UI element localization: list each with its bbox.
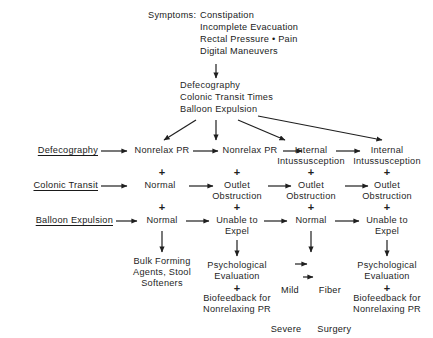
plus-col3-row2: + bbox=[308, 202, 314, 213]
col3-colonic-transit-result: Outlet Obstruction bbox=[286, 180, 336, 202]
col3-treatment-table: MildFiber SevereSurgery bbox=[271, 258, 352, 338]
col3-treatment-row-mild: MildFiber bbox=[271, 284, 352, 297]
stage-label-balloon-expulsion: Balloon Expulsion bbox=[36, 215, 113, 226]
plus-col3-row1: + bbox=[308, 167, 314, 178]
test-item-balloon-expulsion: Balloon Expulsion bbox=[180, 104, 257, 115]
col4-defecography-result: Internal Intussusception bbox=[353, 145, 421, 167]
symptom-item-incomplete-evacuation: Incomplete Evacuation bbox=[200, 22, 298, 34]
col2-colonic-transit-result: Outlet Obstruction bbox=[212, 180, 262, 202]
col4-treatment-plus: + bbox=[384, 283, 390, 294]
symptom-item-constipation: Constipation bbox=[200, 10, 254, 22]
col4-balloon-expulsion-result: Unable to Expel bbox=[366, 215, 408, 237]
col3-treatment-row-severe: SevereSurgery bbox=[271, 323, 352, 336]
plus-col2-row2: + bbox=[234, 202, 240, 213]
col3-therapy-surgery: Surgery bbox=[317, 324, 351, 334]
stage-label-colonic-transit: Colonic Transit bbox=[33, 180, 98, 191]
col1-treatment: Bulk Forming Agents, Stool Softeners bbox=[133, 256, 191, 290]
plus-col4-row1: + bbox=[384, 167, 390, 178]
plus-col1-row2: + bbox=[159, 202, 165, 213]
col2-balloon-expulsion-result: Unable to Expel bbox=[216, 215, 258, 237]
col3-severity-severe: Severe bbox=[271, 324, 302, 334]
col1-defecography-result: Nonrelax PR bbox=[135, 145, 190, 156]
col4-treatment-extra: Biofeedback for Nonrelaxing PR bbox=[353, 293, 421, 315]
col3-severity-mild: Mild bbox=[281, 285, 299, 295]
stage-label-defecography: Defecography bbox=[38, 145, 98, 156]
edge-tests-to-col3 bbox=[238, 120, 285, 140]
col3-defecography-result: Internal Intussusception bbox=[277, 145, 345, 167]
plus-col4-row2: + bbox=[384, 202, 390, 213]
edge-tests-to-col1 bbox=[164, 120, 196, 140]
col3-therapy-fiber: Fiber bbox=[319, 285, 341, 295]
col1-colonic-transit-result: Normal bbox=[144, 180, 175, 191]
test-item-colonic-transit-times: Colonic Transit Times bbox=[180, 92, 273, 103]
test-item-defecography: Defecography bbox=[180, 80, 240, 91]
col1-balloon-expulsion-result: Normal bbox=[146, 215, 177, 226]
col2-defecography-result: Nonrelax PR bbox=[223, 145, 278, 156]
edge-tests-to-col4 bbox=[258, 116, 382, 140]
col4-treatment: Psychological Evaluation bbox=[357, 260, 416, 282]
symptom-item-rectal-pressure-pain: Rectal Pressure • Pain bbox=[200, 34, 298, 46]
col3-balloon-expulsion-result: Normal bbox=[295, 215, 326, 226]
col2-treatment: Psychological Evaluation bbox=[207, 260, 266, 282]
col2-treatment-plus: + bbox=[234, 283, 240, 294]
col4-colonic-transit-result: Outlet Obstruction bbox=[362, 180, 412, 202]
plus-col1-row1: + bbox=[159, 167, 165, 178]
plus-col2-row1: + bbox=[234, 167, 240, 178]
symptoms-label: Symptoms: bbox=[148, 10, 196, 22]
col2-treatment-extra: Biofeedback for Nonrelaxing PR bbox=[203, 293, 271, 315]
symptom-item-digital-maneuvers: Digital Maneuvers bbox=[200, 46, 278, 58]
